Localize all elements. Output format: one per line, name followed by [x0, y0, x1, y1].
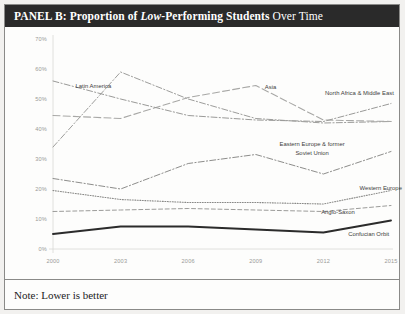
- series-label: Western Europe: [359, 184, 401, 193]
- figure-panel-b: PANEL B: Proportion of Low-Performing St…: [0, 0, 405, 314]
- y-axis-tick-label: 50%: [23, 96, 47, 102]
- plot-area: 0%10%20%30%40%50%60%70%20002003200620092…: [5, 27, 399, 279]
- series-line: [53, 152, 391, 190]
- x-axis-tick-label: 2000: [46, 258, 59, 264]
- panel-title-prefix: PANEL B: Proportion of: [14, 10, 140, 22]
- series-line: [53, 221, 391, 235]
- y-axis-tick-label: 40%: [23, 126, 47, 132]
- x-axis-tick-label: 2015: [384, 258, 397, 264]
- y-axis-tick-label: 20%: [23, 186, 47, 192]
- x-axis-tick-label: 2003: [114, 258, 127, 264]
- panel-title: PANEL B: Proportion of Low-Performing St…: [14, 10, 323, 22]
- y-axis-tick-label: 60%: [23, 66, 47, 72]
- series-label: Anglo-Saxon: [321, 208, 355, 217]
- series-label: Latin America: [76, 82, 112, 91]
- panel-title-emphasis: Low: [140, 10, 161, 22]
- y-axis-tick-label: 10%: [23, 216, 47, 222]
- y-axis-tick-label: 70%: [23, 36, 47, 42]
- y-axis-tick-label: 0%: [23, 246, 47, 252]
- x-axis-tick-label: 2012: [317, 258, 330, 264]
- series-label: North Africa & Middle East: [322, 89, 396, 98]
- series-line: [53, 191, 391, 205]
- chart-card: PANEL B: Proportion of Low-Performing St…: [4, 4, 400, 310]
- panel-title-middle: -Performing Students: [161, 10, 272, 22]
- series-label: Asia: [265, 83, 276, 92]
- series-label: Confucian Orbit: [348, 230, 389, 239]
- x-axis-tick-label: 2009: [249, 258, 262, 264]
- series-label: Eastern Europe & former Soviet Union: [275, 140, 349, 157]
- note-text: Note: Lower is better: [14, 289, 108, 301]
- panel-title-bar: PANEL B: Proportion of Low-Performing St…: [5, 5, 399, 27]
- panel-title-suffix: Over Time: [273, 10, 323, 22]
- y-axis-tick-label: 30%: [23, 156, 47, 162]
- note-bar: Note: Lower is better: [5, 279, 399, 309]
- x-axis-tick-label: 2006: [182, 258, 195, 264]
